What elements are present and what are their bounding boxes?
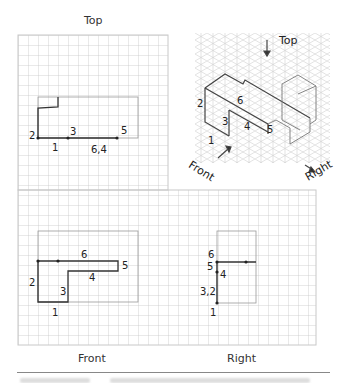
front-label-6: 6 xyxy=(81,250,87,260)
top-label-3: 3 xyxy=(70,127,76,137)
front-label-4: 4 xyxy=(89,273,95,283)
iso-label-2: 2 xyxy=(197,99,203,109)
front-view-title: Front xyxy=(78,352,106,365)
bottom-grid xyxy=(18,190,316,345)
isometric-grid xyxy=(195,33,330,163)
iso-label-5: 5 xyxy=(267,125,273,135)
iso-label-top: Top xyxy=(279,36,298,46)
right-label-4: 4 xyxy=(220,270,226,280)
front-label-1: 1 xyxy=(52,308,58,318)
iso-label-4: 4 xyxy=(244,122,250,132)
right-label-1: 1 xyxy=(210,308,216,318)
faint-text-fragment xyxy=(20,378,90,383)
right-label-3-2: 3,2 xyxy=(200,287,216,297)
right-label-6: 6 xyxy=(208,250,214,260)
front-label-2: 2 xyxy=(29,278,35,288)
faint-text-fragment xyxy=(110,378,310,383)
right-view-title: Right xyxy=(227,352,256,365)
top-view-title: Top xyxy=(84,14,103,27)
right-label-5: 5 xyxy=(207,262,213,272)
iso-label-3: 3 xyxy=(222,117,228,127)
divider-rule xyxy=(17,372,330,373)
top-label-1: 1 xyxy=(52,143,58,153)
top-label-6-4: 6,4 xyxy=(91,145,107,155)
drawing-canvas xyxy=(0,0,342,383)
top-grid xyxy=(18,35,168,190)
front-label-5: 5 xyxy=(122,261,128,271)
iso-label-1: 1 xyxy=(208,136,214,146)
top-label-2: 2 xyxy=(29,131,35,141)
front-label-3: 3 xyxy=(60,287,66,297)
iso-label-6: 6 xyxy=(237,96,243,106)
top-label-5: 5 xyxy=(121,126,127,136)
